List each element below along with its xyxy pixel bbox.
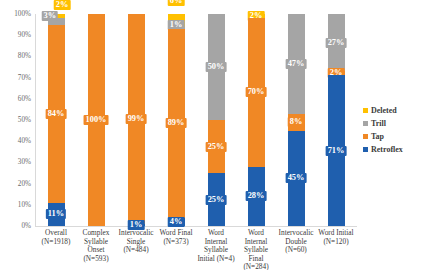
- stacked-bar-chart: 100%90%80%70%60%50%40%30%20%10%0% 2%3%84…: [0, 0, 439, 270]
- bar-segment[interactable]: 25%: [208, 173, 225, 226]
- bar-stack: 2%3%84%11%: [48, 14, 65, 226]
- legend-swatch-icon: [363, 147, 368, 152]
- x-axis-category-label: IntervocalicSingle(N=484): [116, 229, 156, 269]
- bar-segment-label: 25%: [206, 142, 227, 152]
- bar-segment-label: 45%: [286, 173, 307, 183]
- y-axis-tick-label: 0%: [21, 222, 31, 230]
- bar-stack: 2%70%28%: [248, 14, 265, 226]
- bar-segment-label: 71%: [326, 146, 347, 156]
- bar-segment[interactable]: 27%: [328, 14, 345, 71]
- bar-segment[interactable]: 45%: [288, 131, 305, 226]
- y-axis-tick-label: 40%: [18, 137, 31, 145]
- y-axis-tick-label: 10%: [18, 201, 31, 209]
- bar-segment-label: 100%: [84, 115, 109, 125]
- bar-segment-label: 47%: [286, 59, 307, 69]
- bar-column[interactable]: 6%1%89%4%: [156, 14, 196, 226]
- bar-segment[interactable]: 71%: [328, 75, 345, 226]
- bar-segment-label: 99%: [126, 114, 147, 124]
- legend-item[interactable]: Deleted: [363, 104, 439, 117]
- bar-segment-label: 2%: [54, 0, 71, 10]
- bar-stack: 99%1%: [128, 14, 145, 226]
- bar-segment-label: 50%: [206, 62, 227, 72]
- bar-segment[interactable]: 4%: [168, 218, 185, 226]
- bar-column[interactable]: 99%1%: [116, 14, 156, 226]
- x-axis-category-label: Overall(N=1918): [36, 229, 76, 269]
- x-axis-category-label: ComplexSyllableOnset(N=593): [76, 229, 116, 269]
- bar-segment-label: 6%: [168, 0, 185, 6]
- chart-legend: DeletedTrillTapRetroflex: [363, 104, 439, 156]
- bar-segment[interactable]: 70%: [248, 18, 265, 166]
- bar-group: 2%3%84%11%100%99%1%6%1%89%4%50%25%25%2%7…: [36, 14, 356, 226]
- legend-swatch-icon: [363, 134, 368, 139]
- bar-stack: 27%2%71%: [328, 14, 345, 226]
- bar-stack: 100%: [88, 14, 105, 226]
- bar-segment-label: 11%: [46, 209, 66, 219]
- bar-stack: 47%8%45%: [288, 14, 305, 226]
- legend-swatch-icon: [363, 108, 368, 113]
- x-axis-category-label: WordInternalSyllable Final(N=284): [236, 229, 276, 269]
- bar-column[interactable]: 2%70%28%: [236, 14, 276, 226]
- bar-column[interactable]: 100%: [76, 14, 116, 226]
- x-axis-category-labels: Overall(N=1918)ComplexSyllableOnset(N=59…: [36, 229, 356, 269]
- bar-stack: 6%1%89%4%: [168, 14, 185, 226]
- y-axis: 100%90%80%70%60%50%40%30%20%10%0%: [0, 14, 34, 226]
- bar-segment[interactable]: 8%: [288, 114, 305, 131]
- x-axis-category-label: IntervocalicDouble(N=60): [276, 229, 316, 269]
- y-axis-tick-label: 20%: [18, 180, 31, 188]
- y-axis-tick-label: 30%: [18, 158, 31, 166]
- y-axis-tick-label: 100%: [14, 10, 31, 18]
- bar-segment[interactable]: 28%: [248, 167, 265, 226]
- bar-segment[interactable]: 11%: [48, 203, 65, 226]
- bar-segment-label: 25%: [206, 195, 227, 205]
- x-axis-line: [35, 226, 357, 227]
- bar-segment[interactable]: 47%: [288, 14, 305, 114]
- plot-area: 2%3%84%11%100%99%1%6%1%89%4%50%25%25%2%7…: [36, 14, 356, 226]
- bar-segment[interactable]: 99%: [128, 14, 145, 224]
- bar-segment-label: 70%: [246, 87, 267, 97]
- x-axis-category-label: WordInternalSyllableInitial (N=4): [196, 229, 236, 269]
- legend-label: Deleted: [371, 106, 397, 115]
- x-axis-category-label: Word Initial(N=120): [316, 229, 356, 269]
- legend-swatch-icon: [363, 121, 368, 126]
- bar-segment[interactable]: 25%: [208, 120, 225, 173]
- bar-column[interactable]: 50%25%25%: [196, 14, 236, 226]
- bar-column[interactable]: 2%3%84%11%: [36, 14, 76, 226]
- bar-segment-label: 84%: [46, 109, 67, 119]
- bar-segment-label: 27%: [326, 38, 347, 48]
- legend-item[interactable]: Retroflex: [363, 143, 439, 156]
- bar-segment-label: 89%: [166, 118, 187, 128]
- legend-item[interactable]: Tap: [363, 130, 439, 143]
- y-axis-tick-label: 60%: [18, 95, 31, 103]
- bar-column[interactable]: 27%2%71%: [316, 14, 356, 226]
- x-axis-category-label: Word Final(N=373): [156, 229, 196, 269]
- bar-segment[interactable]: 50%: [208, 14, 225, 120]
- bar-segment-label: 4%: [168, 217, 185, 227]
- y-axis-tick-label: 90%: [18, 31, 31, 39]
- y-axis-tick-label: 50%: [18, 116, 31, 124]
- bar-segment-label: 8%: [288, 117, 305, 127]
- bar-segment-label: 3%: [42, 11, 59, 21]
- bar-segment[interactable]: 84%: [48, 25, 65, 203]
- bar-column[interactable]: 47%8%45%: [276, 14, 316, 226]
- y-axis-tick-label: 80%: [18, 52, 31, 60]
- bar-segment[interactable]: 100%: [88, 14, 105, 226]
- bar-segment-label: 28%: [246, 191, 267, 201]
- y-axis-tick-label: 70%: [18, 74, 31, 82]
- bar-segment[interactable]: 89%: [168, 29, 185, 218]
- bar-segment[interactable]: 1%: [128, 224, 145, 226]
- legend-item[interactable]: Trill: [363, 117, 439, 130]
- legend-label: Retroflex: [371, 145, 403, 154]
- bar-stack: 50%25%25%: [208, 14, 225, 226]
- legend-label: Trill: [371, 119, 386, 128]
- legend-label: Tap: [371, 132, 384, 141]
